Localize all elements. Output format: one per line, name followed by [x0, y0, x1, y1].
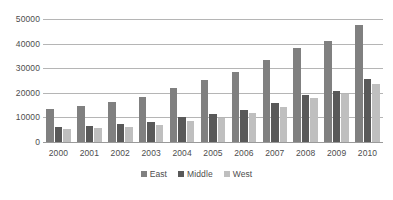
- bar-middle-2009[interactable]: [333, 91, 341, 142]
- bar-cluster: [259, 19, 290, 142]
- bar-west-2000[interactable]: [63, 129, 71, 142]
- legend-item-east[interactable]: East: [141, 170, 167, 179]
- bar-east-2008[interactable]: [293, 48, 301, 142]
- y-tick-label: 50000: [2, 15, 40, 24]
- bar-cluster: [136, 19, 167, 142]
- bar-cluster: [228, 19, 259, 142]
- bar-east-2003[interactable]: [139, 97, 147, 143]
- bar-west-2003[interactable]: [156, 125, 164, 142]
- bar-east-2005[interactable]: [201, 80, 209, 142]
- legend-swatch-middle-icon: [178, 171, 184, 177]
- bar-west-2008[interactable]: [310, 98, 318, 142]
- bar-middle-2004[interactable]: [178, 117, 186, 142]
- chart-legend: EastMiddleWest: [0, 170, 393, 179]
- bar-middle-2001[interactable]: [86, 126, 94, 142]
- bar-middle-2005[interactable]: [209, 114, 217, 142]
- x-tick-label: 2003: [136, 145, 167, 161]
- bar-cluster: [352, 19, 383, 142]
- legend-swatch-west-icon: [224, 171, 230, 177]
- bar-cluster: [74, 19, 105, 142]
- bar-clusters: [43, 19, 383, 142]
- y-tick-label: 20000: [2, 89, 40, 98]
- bar-cluster: [290, 19, 321, 142]
- legend-label: Middle: [187, 170, 213, 179]
- bar-cluster: [105, 19, 136, 142]
- bar-west-2004[interactable]: [187, 121, 195, 142]
- x-tick-label: 2002: [105, 145, 136, 161]
- bar-east-2006[interactable]: [232, 72, 240, 142]
- legend-label: West: [233, 170, 253, 179]
- bar-west-2009[interactable]: [341, 94, 349, 142]
- legend-swatch-east-icon: [141, 171, 147, 177]
- bar-east-2004[interactable]: [170, 88, 178, 142]
- bar-east-2000[interactable]: [46, 109, 54, 142]
- legend-label: East: [150, 170, 167, 179]
- bar-east-2007[interactable]: [263, 60, 271, 142]
- bar-east-2001[interactable]: [77, 106, 85, 142]
- bar-east-2010[interactable]: [355, 25, 363, 142]
- x-tick-label: 2010: [352, 145, 383, 161]
- legend-item-west[interactable]: West: [224, 170, 253, 179]
- bar-east-2009[interactable]: [324, 41, 332, 142]
- bar-cluster: [198, 19, 229, 142]
- bar-middle-2007[interactable]: [271, 103, 279, 142]
- bar-west-2005[interactable]: [218, 118, 226, 142]
- bar-west-2007[interactable]: [280, 107, 288, 142]
- bar-middle-2010[interactable]: [364, 79, 372, 142]
- x-tick-label: 2001: [74, 145, 105, 161]
- x-axis: 2000200120022003200420052006200720082009…: [43, 145, 383, 161]
- bar-chart: 01000020000300004000050000 2000200120022…: [0, 0, 393, 200]
- x-tick-label: 2000: [43, 145, 74, 161]
- x-tick-label: 2008: [290, 145, 321, 161]
- bar-middle-2002[interactable]: [117, 124, 125, 142]
- bar-west-2006[interactable]: [249, 113, 257, 142]
- bar-middle-2000[interactable]: [55, 127, 63, 142]
- bar-middle-2006[interactable]: [240, 110, 248, 142]
- x-tick-label: 2007: [259, 145, 290, 161]
- x-tick-label: 2009: [321, 145, 352, 161]
- y-tick-label: 0: [2, 138, 40, 147]
- y-tick-label: 40000: [2, 39, 40, 48]
- y-tick-label: 30000: [2, 64, 40, 73]
- bar-cluster: [43, 19, 74, 142]
- bar-west-2002[interactable]: [125, 127, 133, 142]
- bar-west-2010[interactable]: [372, 84, 380, 142]
- bar-east-2002[interactable]: [108, 102, 116, 142]
- x-tick-label: 2004: [167, 145, 198, 161]
- bar-cluster: [167, 19, 198, 142]
- axis-baseline: [43, 142, 383, 143]
- bar-middle-2008[interactable]: [302, 95, 310, 142]
- legend-item-middle[interactable]: Middle: [178, 170, 213, 179]
- y-tick-label: 10000: [2, 113, 40, 122]
- x-tick-label: 2005: [198, 145, 229, 161]
- bar-middle-2003[interactable]: [147, 122, 155, 142]
- x-tick-label: 2006: [228, 145, 259, 161]
- bar-west-2001[interactable]: [94, 128, 102, 142]
- bar-cluster: [321, 19, 352, 142]
